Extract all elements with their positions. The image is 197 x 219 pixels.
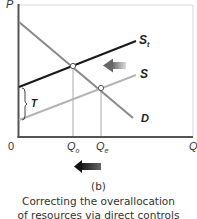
qe-main: Q: [96, 140, 105, 152]
s-curve-label: S: [140, 67, 148, 81]
qo-sub: o: [76, 147, 80, 154]
equilibrium-point-st: [70, 63, 75, 68]
y-axis-label: P: [6, 0, 13, 10]
qo-main: Q: [67, 140, 76, 152]
st-curve-label: St: [139, 33, 149, 48]
st-label-sub: t: [147, 41, 149, 48]
quantity-shift-arrow-icon: [74, 160, 101, 173]
origin-label: 0: [8, 140, 14, 152]
tax-brace-icon: [22, 88, 27, 120]
supply-shift-arrow-icon: [103, 59, 126, 73]
d-curve-label: D: [141, 112, 149, 124]
tax-label: T: [31, 98, 37, 109]
st-label-main: S: [139, 33, 147, 47]
qe-sub: e: [105, 147, 109, 154]
panel-label: (b): [0, 180, 197, 192]
equilibrium-point-s: [98, 85, 103, 90]
caption-line-1: Correcting the overallocation: [0, 195, 197, 207]
x-tick-qe: Qe: [96, 140, 108, 154]
x-tick-qo: Qo: [67, 140, 79, 154]
x-axis-label: Q: [189, 140, 197, 152]
caption-line-2: of resources via direct controls: [0, 209, 197, 219]
